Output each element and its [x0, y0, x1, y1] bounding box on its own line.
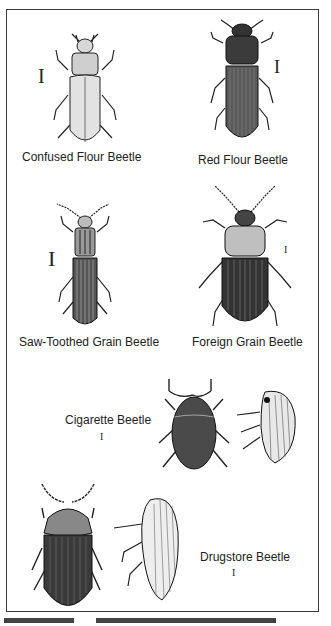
cigarette-beetle-dorsal-illustration — [155, 375, 235, 475]
truncated-caption — [0, 618, 331, 626]
label-red-flour-beetle: Red Flour Beetle — [198, 153, 288, 167]
label-confused-flour-beetle: Confused Flour Beetle — [22, 150, 141, 164]
label-saw-toothed-grain-beetle: Saw-Toothed Grain Beetle — [19, 335, 159, 349]
cigarette-beetle-lateral-illustration — [235, 387, 300, 467]
foreign-grain-beetle-illustration — [195, 186, 295, 331]
label-drugstore-beetle: Drugstore Beetle — [200, 550, 290, 564]
saw-toothed-grain-beetle-illustration — [55, 202, 115, 330]
drugstore-beetle-lateral-illustration — [112, 492, 187, 602]
drugstore-beetle-dorsal-illustration — [30, 478, 105, 613]
scale-bar-drugstore-beetle: I — [232, 568, 235, 578]
label-cigarette-beetle: Cigarette Beetle — [65, 413, 151, 427]
scale-bar-cigarette-beetle: I — [100, 432, 103, 442]
scale-bar-confused-flour-beetle: I — [38, 66, 45, 86]
red-flour-beetle-illustration — [207, 18, 277, 148]
confused-flour-beetle-illustration — [50, 30, 120, 150]
label-foreign-grain-beetle: Foreign Grain Beetle — [192, 335, 303, 349]
